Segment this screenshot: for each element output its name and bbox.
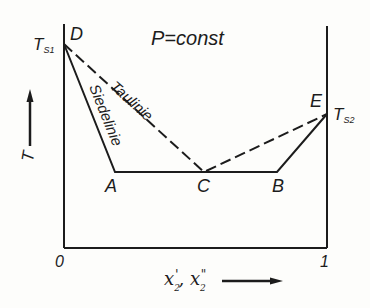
point-a-label: A (105, 177, 117, 195)
y-axis-arrow-head (27, 89, 34, 102)
x-axis-label: x2', x2" (164, 270, 206, 288)
x-axis-arrow-head (270, 278, 283, 285)
phase-diagram: P=const TS1 TS2 D A C B E Taulinie Siede… (0, 0, 370, 308)
x-tick-1: 1 (320, 254, 329, 270)
point-e-label: E (310, 92, 322, 110)
x-label-base2: x (190, 268, 200, 289)
x-label-sep: , (178, 268, 189, 289)
left-temperature-label: TS1 (33, 36, 54, 53)
x-label-base1: x (164, 268, 174, 289)
point-b-label: B (272, 177, 284, 195)
right-temperature-label: TS2 (333, 106, 354, 123)
ts1-sub: S1 (43, 45, 54, 55)
x-tick-0: 0 (55, 254, 64, 270)
point-c-label: C (197, 177, 210, 195)
ts2-base: T (333, 105, 343, 124)
diagram-title: P=const (151, 28, 224, 48)
x-label-prime1: ' (175, 267, 179, 282)
x-label-prime2: " (201, 268, 207, 282)
point-d-label: D (70, 25, 83, 43)
title-text: P=const (151, 27, 224, 49)
x-label-sub2: 2 (200, 283, 206, 293)
x-label-sub1: 2 (174, 283, 180, 293)
ts1-base: T (33, 35, 43, 54)
ts2-sub: S2 (343, 115, 354, 125)
